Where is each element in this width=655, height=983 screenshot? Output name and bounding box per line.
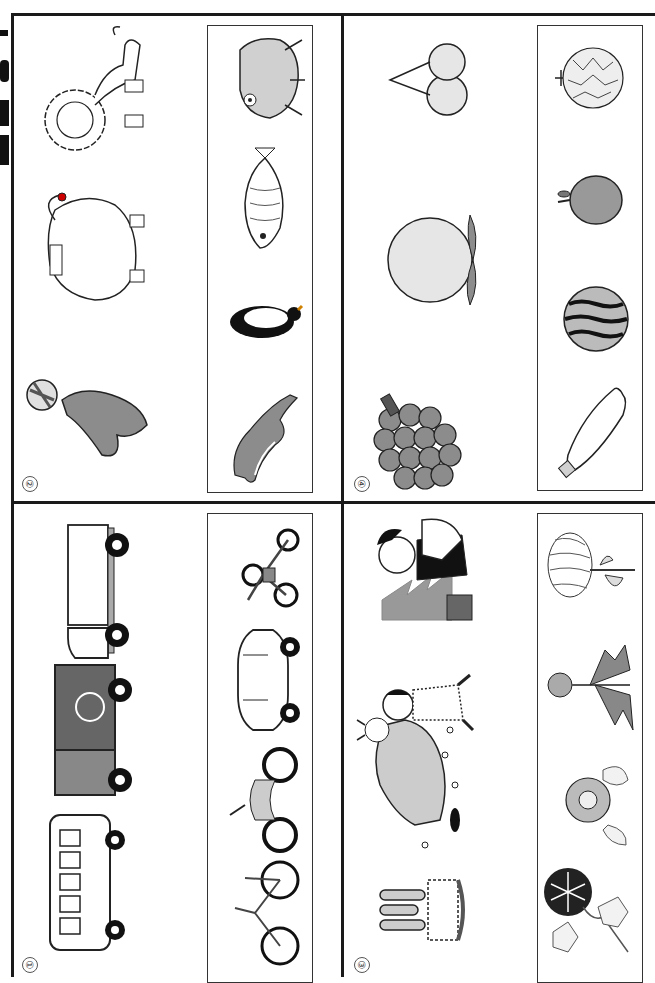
tricycle-icon[interactable] bbox=[228, 520, 308, 620]
cherries-icon[interactable] bbox=[385, 50, 475, 130]
truck-icon[interactable] bbox=[60, 520, 160, 660]
morning-glory-icon[interactable] bbox=[543, 862, 643, 972]
frame-left-border bbox=[11, 14, 14, 977]
section-number-3: ③ bbox=[354, 957, 370, 973]
dandelion-icon[interactable] bbox=[545, 640, 640, 740]
motorcycle-icon[interactable] bbox=[225, 745, 305, 855]
lion-icon[interactable] bbox=[35, 25, 155, 165]
dolphin-icon[interactable] bbox=[225, 390, 305, 490]
kadomatsu-icon[interactable] bbox=[370, 860, 470, 970]
camellia-icon[interactable] bbox=[548, 750, 638, 850]
sea-lion-icon[interactable] bbox=[22, 365, 152, 465]
bus-icon[interactable] bbox=[40, 810, 130, 955]
frame-top-border bbox=[11, 13, 655, 16]
section-number-4: ④ bbox=[354, 476, 370, 492]
frame-vertical-divider bbox=[341, 14, 344, 977]
christmas-santa-icon[interactable] bbox=[372, 520, 482, 630]
peach-icon[interactable] bbox=[385, 205, 485, 315]
fire-truck-icon[interactable] bbox=[45, 655, 145, 805]
car-icon[interactable] bbox=[228, 625, 308, 735]
child-throwing-beans-icon[interactable] bbox=[378, 665, 478, 745]
daikon-icon[interactable] bbox=[553, 375, 633, 485]
apple-icon[interactable] bbox=[556, 170, 626, 230]
frog-icon[interactable] bbox=[230, 30, 305, 125]
grapes-icon[interactable] bbox=[370, 400, 470, 510]
section-number-2: ② bbox=[22, 476, 38, 492]
section-number-1: ① bbox=[22, 957, 38, 973]
fish-icon[interactable] bbox=[235, 148, 295, 258]
bicycle-icon[interactable] bbox=[225, 858, 305, 968]
watermelon-icon[interactable] bbox=[561, 284, 631, 354]
chrysanthemum-icon[interactable] bbox=[545, 520, 640, 610]
penguin-icon[interactable] bbox=[222, 292, 302, 352]
frame-middle-divider bbox=[11, 501, 655, 504]
elephant-icon[interactable] bbox=[35, 190, 145, 310]
melon-icon[interactable] bbox=[553, 40, 623, 115]
